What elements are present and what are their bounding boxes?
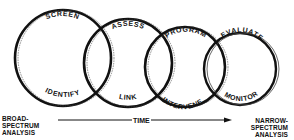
broad-line-3: ANALYSIS: [2, 129, 39, 136]
narrow-line-2: SPECTRUM: [251, 124, 288, 131]
time-label: TIME: [132, 117, 151, 124]
narrow-line-3: ANALYSIS: [251, 131, 288, 138]
label-identify: IDENTIFY: [44, 87, 80, 99]
label-program: PROGRAM: [164, 26, 209, 39]
broad-line-2: SPECTRUM: [2, 122, 39, 129]
broad-line-1: BROAD-: [2, 115, 39, 122]
label-intervene: INTERVENE: [161, 96, 204, 110]
label-monitor: MONITOR: [223, 90, 259, 103]
narrow-line-1: NARROW-: [251, 117, 288, 124]
label-link: LINK: [118, 93, 137, 101]
narrow-spectrum-label: NARROW- SPECTRUM ANALYSIS: [251, 117, 288, 138]
circle-evaluate-monitor: [204, 33, 279, 105]
broad-spectrum-label: BROAD- SPECTRUM ANALYSIS: [2, 115, 39, 136]
